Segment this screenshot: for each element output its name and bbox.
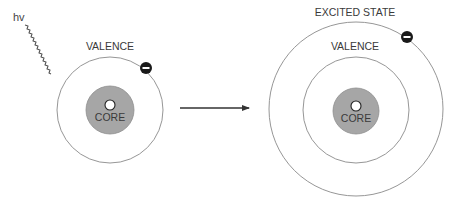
electron-icon — [401, 31, 413, 43]
nucleus-icon — [351, 101, 361, 111]
core-label: CORE — [95, 111, 125, 123]
photon-label: hv — [13, 11, 25, 23]
photoexcitation-diagram: hv VALENCE CORE EXCITED STATE VALENCE CO… — [0, 0, 454, 204]
electron-icon — [140, 62, 152, 74]
core-label: CORE — [341, 112, 371, 124]
ground-state-atom: VALENCE CORE — [57, 40, 163, 163]
valence-label: VALENCE — [86, 40, 134, 52]
excited-state-label: EXCITED STATE — [315, 6, 396, 18]
excited-state-atom: EXCITED STATE VALENCE CORE — [269, 6, 443, 196]
valence-label: VALENCE — [331, 40, 379, 52]
photon-wave-icon — [25, 25, 51, 74]
nucleus-icon — [105, 100, 115, 110]
photon: hv — [13, 11, 51, 74]
